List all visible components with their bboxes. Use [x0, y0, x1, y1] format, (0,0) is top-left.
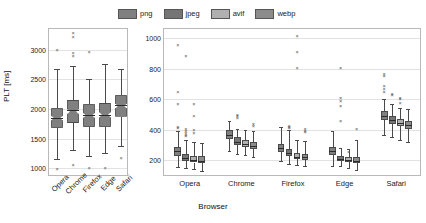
whisker-cap: [295, 140, 299, 141]
whisker: [392, 104, 393, 116]
whisker-cap: [406, 142, 410, 143]
whisker: [186, 161, 187, 168]
y-tick-label: 1000: [30, 165, 46, 172]
outlier-marker: ×: [383, 90, 386, 96]
whisker-cap: [200, 143, 204, 144]
outlier-marker: ×: [391, 94, 394, 100]
left-plot-area: 10001500200025003000××Opera×××××Chrome××…: [49, 29, 127, 175]
legend-label-png: png: [140, 10, 153, 18]
y-tick-label: 3000: [30, 46, 46, 53]
whisker: [281, 127, 282, 144]
whisker-cap: [390, 137, 394, 138]
legend-item-webp: webp: [255, 9, 295, 19]
whisker-cap: [279, 127, 283, 128]
chart-legend: pngjpegavifwebp: [118, 6, 308, 22]
median-line: [174, 151, 181, 152]
whisker-cap: [295, 165, 299, 166]
outlier-marker: ×: [295, 50, 298, 56]
whisker-cap: [118, 146, 124, 147]
outlier-marker: ×: [55, 167, 58, 173]
outlier-marker: ×: [103, 166, 106, 172]
x-tick-label-safari: Safari: [386, 179, 406, 188]
legend-swatch-jpeg: [164, 9, 183, 19]
whisker: [178, 156, 179, 167]
median-line: [226, 135, 233, 136]
right-x-axis-title: Browser: [0, 202, 426, 211]
outlier-marker: ×: [355, 127, 358, 133]
whisker-cap: [200, 171, 204, 172]
median-line: [250, 146, 257, 147]
whisker-cap: [355, 140, 359, 141]
whisker: [237, 145, 238, 154]
gridline: [164, 69, 420, 70]
whisker-cap: [355, 170, 359, 171]
whisker: [121, 69, 122, 96]
whisker-cap: [303, 141, 307, 142]
legend-label-jpeg: jpeg: [186, 10, 200, 18]
whisker: [253, 149, 254, 157]
whisker-cap: [339, 166, 343, 167]
outlier-marker: ×: [192, 103, 195, 109]
outlier-marker: ×: [236, 116, 239, 122]
whisker: [73, 123, 74, 150]
outlier-marker: ×: [192, 132, 195, 138]
whisker: [333, 131, 334, 147]
whisker: [57, 128, 58, 159]
legend-swatch-webp: [255, 9, 274, 19]
outlier-marker: ×: [339, 104, 342, 110]
median-line: [302, 157, 309, 158]
y-tick-label: 400: [149, 126, 161, 133]
median-line: [389, 120, 396, 121]
whisker: [357, 163, 358, 170]
median-line: [294, 157, 301, 158]
whisker: [202, 163, 203, 171]
whisker: [384, 120, 385, 135]
whisker-cap: [406, 109, 410, 110]
median-line: [381, 116, 388, 117]
whisker: [121, 117, 122, 147]
whisker: [73, 66, 74, 100]
whisker-cap: [398, 140, 402, 141]
whisker: [202, 143, 203, 157]
outlier-marker: ×: [339, 66, 342, 72]
median-line: [329, 151, 336, 152]
median-line: [242, 144, 249, 145]
chart-root: pngjpegavifwebp 10001500200025003000××Op…: [0, 0, 426, 223]
whisker: [57, 69, 58, 108]
whisker-cap: [339, 148, 343, 149]
legend-item-jpeg: jpeg: [164, 9, 200, 19]
whisker-cap: [331, 131, 335, 132]
outlier-marker: ×: [87, 166, 90, 172]
median-line: [198, 161, 205, 162]
whisker: [408, 109, 409, 121]
whisker-cap: [244, 130, 248, 131]
whisker: [341, 148, 342, 156]
gridline: [49, 139, 127, 140]
box: [67, 100, 79, 123]
x-tick-label-opera: Opera: [179, 179, 200, 188]
whisker-cap: [236, 129, 240, 130]
whisker: [297, 140, 298, 153]
median-line: [67, 110, 79, 111]
outlier-marker: ×: [252, 124, 255, 130]
whisker-cap: [70, 150, 76, 151]
x-tick-label-firefox: Firefox: [282, 179, 305, 188]
whisker-cap: [252, 131, 256, 132]
outlier-marker: ×: [176, 43, 179, 49]
outlier-marker: ×: [295, 34, 298, 40]
outlier-marker: ×: [339, 119, 342, 125]
whisker-cap: [54, 69, 60, 70]
legend-item-png: png: [118, 9, 153, 19]
median-line: [234, 142, 241, 143]
whisker: [400, 126, 401, 140]
whisker-cap: [252, 157, 256, 158]
whisker: [289, 156, 290, 164]
whisker: [289, 130, 290, 150]
whisker-cap: [184, 168, 188, 169]
whisker: [384, 99, 385, 111]
outlier-marker: ×: [176, 126, 179, 132]
outlier-marker: ×: [347, 150, 350, 156]
whisker: [105, 64, 106, 103]
legend-label-avif: avif: [233, 10, 245, 18]
y-tick-label: 200: [149, 157, 161, 164]
